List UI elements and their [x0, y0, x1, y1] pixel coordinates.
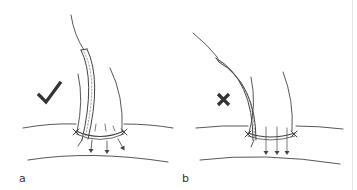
- check-mark-icon: [39, 83, 60, 102]
- lower-tissue-line: [200, 157, 340, 164]
- panel-b: b: [178, 0, 356, 190]
- panel-label-a: a: [19, 173, 26, 184]
- upper-skin-line-left: [23, 124, 76, 128]
- upper-skin-line-right: [124, 124, 173, 128]
- left-tissue-wall: [77, 74, 81, 132]
- panel-a-illustration: [0, 0, 178, 190]
- panel-b-illustration: [178, 0, 356, 190]
- upper-skin-line-right: [296, 126, 343, 129]
- suture-thread: [193, 33, 218, 58]
- upper-skin-line-left: [196, 126, 248, 128]
- panel-a: a: [0, 0, 178, 190]
- cross-mark-icon: [218, 94, 229, 105]
- suture-thread: [71, 15, 84, 50]
- right-tissue-wall: [110, 68, 122, 131]
- lower-tissue-line: [28, 155, 168, 162]
- panel-label-b: b: [182, 173, 189, 184]
- right-tissue-wall: [283, 72, 292, 131]
